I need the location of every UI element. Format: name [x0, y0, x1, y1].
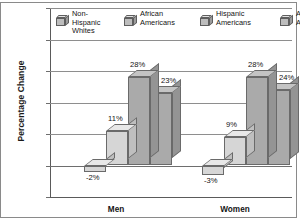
cube-icon: [280, 15, 293, 26]
bar-side-face: [150, 63, 159, 158]
data-label: 23%: [161, 76, 176, 85]
y-tick-mark: [46, 197, 50, 198]
category-label: Women: [205, 205, 265, 214]
data-label: 9%: [226, 120, 237, 129]
legend-item: Non-HispanicWhites: [56, 10, 120, 36]
cube-icon: [56, 15, 69, 26]
legend-item: HispanicAmericans: [200, 10, 276, 27]
y-tick-mark: [46, 8, 50, 9]
data-label: 28%: [248, 60, 263, 69]
bar: [202, 166, 224, 175]
gridline: [50, 197, 292, 198]
y-tick-mark: [46, 40, 50, 41]
data-label: -3%: [204, 176, 218, 185]
data-label: 11%: [108, 114, 123, 123]
category-label: Men: [86, 205, 146, 214]
legend-label: HispanicAmericans: [216, 10, 276, 27]
y-tick-mark: [46, 166, 50, 167]
bar-chart: Percentage Change +50%+40%+30%+20%+10%0%…: [0, 0, 300, 223]
legend-label: AsianAmericans: [296, 10, 300, 27]
y-tick-mark: [46, 134, 50, 135]
cube-icon: [124, 15, 137, 26]
legend-item: AsianAmericans: [280, 10, 300, 27]
bar-front-face: [202, 166, 224, 175]
y-tick-mark: [46, 71, 50, 72]
legend-item: AfricanAmericans: [124, 10, 196, 27]
bar-side-face: [268, 63, 277, 158]
bar-front-face: [84, 166, 106, 172]
legend-label: AfricanAmericans: [140, 10, 196, 27]
y-axis-title: Percentage Change: [16, 36, 26, 166]
bar: [84, 166, 106, 172]
cube-icon: [200, 15, 213, 26]
chart-legend: Non-HispanicWhitesAfricanAmericansHispan…: [56, 10, 288, 42]
data-label: 28%: [130, 60, 145, 69]
data-label: -2%: [86, 173, 100, 182]
data-label: 24%: [279, 73, 294, 82]
legend-label: Non-HispanicWhites: [72, 10, 120, 36]
y-tick-mark: [46, 103, 50, 104]
